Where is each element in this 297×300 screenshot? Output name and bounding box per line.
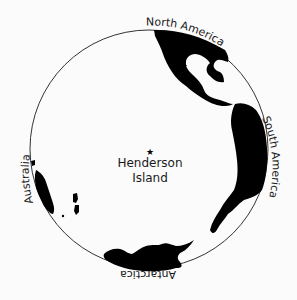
antarctica-landmass — [104, 240, 194, 271]
center-label-island: Island — [132, 171, 168, 185]
label-antarctica-text: Antarctica — [120, 268, 176, 281]
new-zealand-north-island — [73, 193, 78, 203]
small-island — [62, 215, 64, 217]
center-label-henderson: Henderson — [117, 156, 182, 170]
map-canvas: ★ Henderson Island North America South A… — [0, 0, 297, 300]
south-america-landmass — [210, 103, 267, 233]
australia-landmass — [35, 170, 54, 214]
new-zealand-south-island — [74, 205, 79, 215]
